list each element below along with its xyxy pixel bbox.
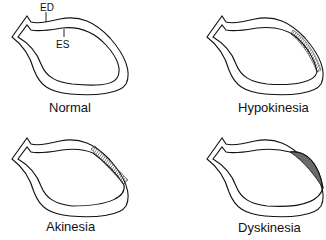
- es-label: ES: [56, 39, 70, 50]
- es-contour: [18, 147, 124, 206]
- wall-motion-diagram: ED ES Normal Hypokinesia Akinesia Dyskin…: [0, 0, 326, 240]
- panel-label-dyskinesia: Dyskinesia: [238, 220, 302, 235]
- es-contour: [213, 147, 323, 206]
- akinetic-segment-hatch: [91, 146, 128, 184]
- es-contour: [18, 25, 119, 85]
- panel-hypokinesia: Hypokinesia: [207, 16, 323, 115]
- panel-akinesia: Akinesia: [12, 138, 128, 234]
- ed-label: ED: [40, 2, 54, 13]
- panel-label-normal: Normal: [49, 100, 91, 115]
- panel-dyskinesia: Dyskinesia: [207, 138, 323, 235]
- panel-normal: ED ES Normal: [12, 2, 128, 115]
- panel-label-akinesia: Akinesia: [46, 219, 96, 234]
- panel-label-hypokinesia: Hypokinesia: [238, 100, 310, 115]
